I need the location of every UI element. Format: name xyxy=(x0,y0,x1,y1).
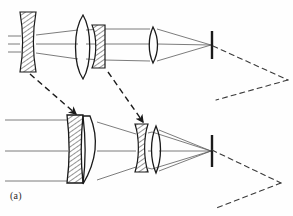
figure-caption: (a) xyxy=(10,190,22,201)
lens-l1-negative-front-group xyxy=(67,115,83,183)
optical-ray-diagram: (a) xyxy=(0,0,293,216)
group-motion-arrows xyxy=(30,72,143,122)
lens-l3-negative-biconcave xyxy=(135,124,148,172)
lens-l2-positive-meniscus xyxy=(83,116,95,184)
lens-u3-negative-hatched xyxy=(92,25,105,68)
upper-incoming-rays xyxy=(8,36,21,52)
lens-u4-positive-rear xyxy=(149,27,157,63)
upper-rays-seg2 xyxy=(36,30,78,59)
lens-u1-negative-front-group xyxy=(20,12,36,72)
lens-u2-positive-biconvex xyxy=(76,15,90,79)
lower-incoming-rays xyxy=(5,120,68,181)
front-group-motion-arrow xyxy=(30,74,76,114)
lower-field-angle-chevron xyxy=(212,150,281,209)
lower-rays-seg2 xyxy=(97,122,136,180)
upper-optical-system xyxy=(8,12,212,79)
middle-group-motion-arrow xyxy=(108,72,143,122)
upper-rays-converging xyxy=(157,29,211,61)
upper-field-angle-chevron xyxy=(213,46,288,100)
diagram-canvas xyxy=(0,0,293,216)
lower-optical-system xyxy=(5,115,212,184)
